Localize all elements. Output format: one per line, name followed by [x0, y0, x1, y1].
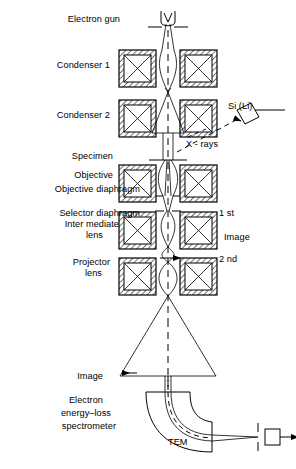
label-tem: TEM	[168, 437, 188, 448]
label-image: Image	[0, 371, 103, 382]
label-selector-diaphragm: Selector diaphragm	[0, 208, 140, 219]
label-electron-gun: Electron gun	[0, 14, 120, 25]
spectrum-detector	[265, 429, 292, 445]
label-image-right: Image	[224, 232, 250, 243]
label-projector-lens-line1: Projector	[0, 257, 110, 268]
label-si-li-detector: Si (Li)	[228, 101, 252, 112]
label-first-image: 1 st	[219, 208, 234, 219]
dispersed-beam	[212, 435, 258, 441]
label-specimen: Specimen	[0, 151, 113, 162]
label-eels-line2: energy–loss	[0, 408, 111, 419]
tem-column-diagram: Electron gun Condenser 1 Condenser 2 Spe…	[0, 0, 296, 469]
label-condenser-1: Condenser 1	[0, 60, 110, 71]
label-objective: Objective	[0, 170, 113, 181]
label-objective-diaphragm: Objective diaphragm	[0, 184, 140, 195]
label-second-image: 2 nd	[219, 254, 237, 265]
label-eels-line1: Electron	[0, 395, 103, 406]
label-x-rays: X - rays	[186, 139, 218, 150]
label-condenser-2: Condenser 2	[0, 110, 110, 121]
beam-projector	[159, 262, 177, 296]
label-intermediate-lens-line1: Inter mediate	[0, 219, 119, 230]
label-intermediate-lens-line2: lens	[0, 230, 103, 241]
label-eels-line3: spectrometer	[0, 421, 116, 432]
label-projector-lens-line2: lens	[0, 268, 102, 279]
